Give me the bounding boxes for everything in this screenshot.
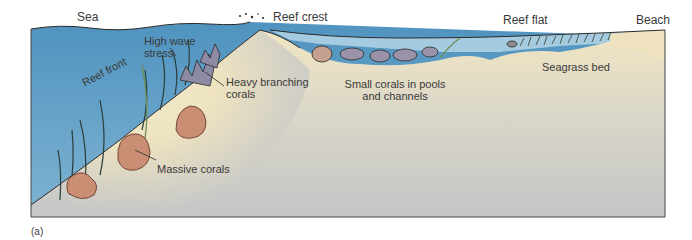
label-heavy-branching-line2: corals <box>226 88 255 100</box>
label-heavy-branching-line1: Heavy branching <box>226 76 309 88</box>
label-high-wave-stress-line1: High wave <box>144 35 195 47</box>
label-reef-flat: Reef flat <box>503 14 548 26</box>
reef-cross-section-diagram <box>0 0 692 240</box>
label-small-corals-line2: and channels <box>331 90 459 102</box>
label-high-wave-stress-line2: stress <box>144 47 173 59</box>
label-small-corals-line1: Small corals in pools <box>331 78 459 90</box>
label-beach: Beach <box>636 14 670 26</box>
panel-label: (a) <box>31 226 43 238</box>
label-seagrass-bed: Seagrass bed <box>542 61 610 73</box>
label-reef-crest: Reef crest <box>273 11 328 23</box>
label-massive-corals: Massive corals <box>157 163 230 175</box>
wave-spray <box>239 13 264 19</box>
label-sea: Sea <box>77 11 98 23</box>
